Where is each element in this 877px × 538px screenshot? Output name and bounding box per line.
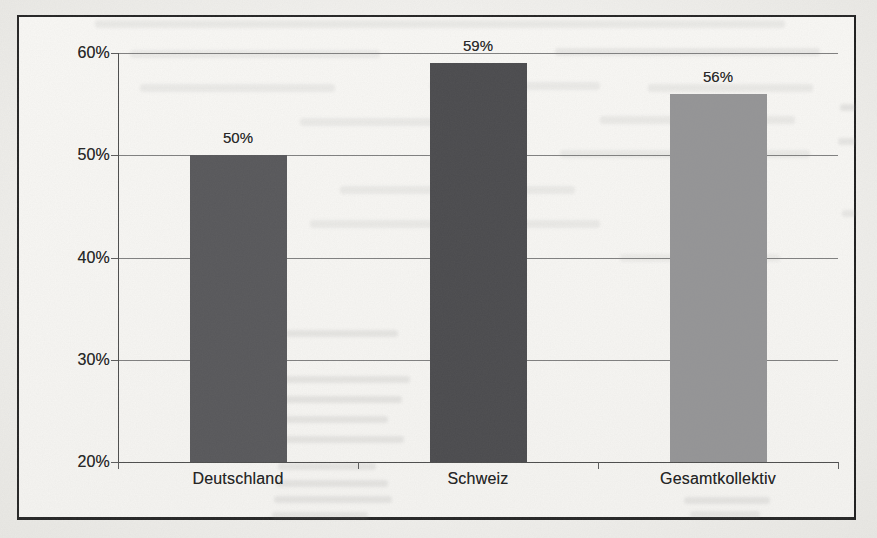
bar-value-label: 56% [678, 68, 758, 85]
y-axis-tick [111, 462, 118, 463]
x-axis-tick [118, 462, 119, 469]
x-axis-line [118, 462, 838, 463]
x-axis-category-label: Gesamtkollektiv [628, 470, 808, 488]
y-axis-tick [111, 360, 118, 361]
bar-schweiz [430, 63, 527, 462]
y-axis-tick [111, 258, 118, 259]
y-axis-tick [111, 155, 118, 156]
scanned-document-page: 60%50%40%30%20%50%Deutschland59%Schweiz5… [0, 0, 877, 538]
bar-value-label: 50% [198, 129, 278, 146]
y-axis-line [118, 53, 119, 462]
bar-value-label: 59% [438, 37, 518, 54]
y-axis-tick-label: 30% [54, 351, 110, 369]
x-axis-tick [358, 462, 359, 469]
y-axis-tick-label: 50% [54, 146, 110, 164]
x-axis-tick [838, 462, 839, 469]
bar-gesamtkollektiv [670, 94, 767, 462]
x-axis-tick [598, 462, 599, 469]
y-axis-tick-label: 40% [54, 249, 110, 267]
y-axis-tick [111, 53, 118, 54]
y-axis-tick-label: 60% [54, 44, 110, 62]
x-axis-category-label: Schweiz [388, 470, 568, 488]
bar-deutschland [190, 155, 287, 462]
x-axis-category-label: Deutschland [148, 470, 328, 488]
y-axis-tick-label: 20% [54, 453, 110, 471]
